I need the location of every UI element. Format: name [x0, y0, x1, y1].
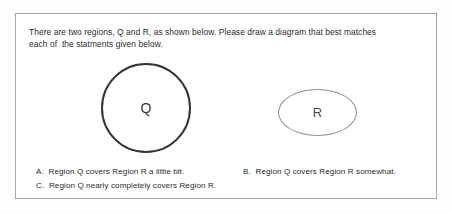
answer-option-a[interactable]: A. Region Q covers Region R a little bit…: [36, 166, 184, 177]
region-r-ellipse[interactable]: [278, 89, 357, 136]
prompt-line-1: There are two regions, Q and R, as shown…: [29, 27, 425, 39]
region-q-circle[interactable]: [101, 63, 191, 153]
prompt-text: There are two regions, Q and R, as shown…: [29, 27, 425, 50]
answer-option-c[interactable]: C. Region Q nearly completely covers Reg…: [36, 180, 216, 191]
scanned-page-surface: There are two regions, Q and R, as shown…: [0, 0, 452, 214]
answer-option-b[interactable]: B. Region Q covers Region R somewhat.: [243, 166, 396, 177]
answer-options-list: A. Region Q covers Region R a little bit…: [16, 166, 438, 200]
prompt-line-2: each of the statments given below.: [29, 39, 425, 51]
question-frame: There are two regions, Q and R, as shown…: [15, 13, 437, 199]
